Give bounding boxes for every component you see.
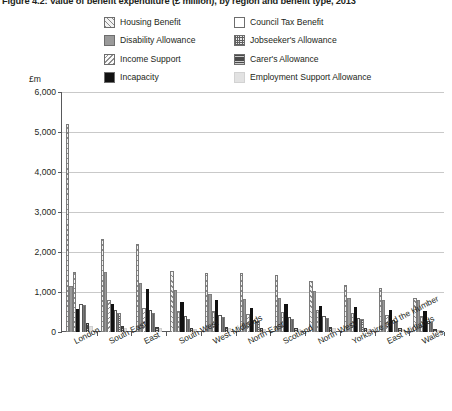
bar-group: [97, 239, 132, 332]
page-title: Figure 4.2: Value of benefit expenditure…: [2, 0, 452, 6]
y-axis-tick-label: 3,000: [34, 207, 56, 217]
crosshatch-swatch: [234, 35, 245, 46]
solid-black-swatch: [104, 72, 115, 83]
diagonal-hatch-swatch: [104, 17, 115, 28]
legend-item-label: Incapacity: [120, 73, 159, 82]
legend-item-label: Jobseeker's Allowance: [250, 36, 337, 45]
y-axis-tick-label: 1,000: [34, 287, 56, 297]
legend-item[interactable]: Employment Support Allowance: [234, 72, 434, 83]
y-gridline: [62, 172, 444, 173]
legend-item[interactable]: Disability Allowance: [104, 35, 234, 46]
reverse-hatch-swatch: [104, 54, 115, 65]
y-axis-unit-label: £m: [29, 74, 41, 84]
y-gridline: [62, 132, 444, 133]
legend-item-label: Council Tax Benefit: [250, 18, 323, 27]
y-axis-tick-label: 0: [51, 327, 56, 337]
y-axis-tick-label: 2,000: [34, 247, 56, 257]
y-axis-tick: [58, 92, 62, 93]
legend-item[interactable]: Carer's Allowance: [234, 54, 434, 65]
bar-group: [166, 271, 201, 332]
light-grey-swatch: [234, 72, 245, 83]
y-axis-tick: [58, 332, 62, 333]
y-gridline: [62, 92, 444, 93]
legend-item-label: Housing Benefit: [120, 18, 181, 27]
solid-grey-swatch: [104, 35, 115, 46]
legend-item-label: Income Support: [120, 55, 181, 64]
bar[interactable]: [159, 328, 162, 332]
legend-item-label: Carer's Allowance: [250, 55, 319, 64]
legend-item[interactable]: Jobseeker's Allowance: [234, 35, 434, 46]
bar-group: [62, 124, 97, 332]
plot-area: 6,0005,0004,0003,0002,0001,0000: [62, 92, 444, 332]
y-axis-tick-label: 5,000: [34, 127, 56, 137]
y-gridline: [62, 212, 444, 213]
legend-item[interactable]: Housing Benefit: [104, 17, 234, 28]
chart-figure: Figure 4.2: Value of benefit expenditure…: [0, 0, 452, 411]
bar-group: [131, 244, 166, 332]
y-axis-tick-label: 4,000: [34, 167, 56, 177]
x-axis-tick: [166, 332, 167, 336]
y-axis-tick-label: 6,000: [34, 87, 56, 97]
legend-item[interactable]: Income Support: [104, 54, 234, 65]
legend-item-label: Employment Support Allowance: [250, 73, 371, 82]
dark-textured-swatch: [234, 54, 245, 65]
legend-item-label: Disability Allowance: [120, 36, 195, 45]
chart-legend: Housing BenefitCouncil Tax BenefitDisabi…: [104, 13, 434, 87]
empty-swatch: [234, 17, 245, 28]
legend-item[interactable]: Council Tax Benefit: [234, 17, 434, 28]
legend-item[interactable]: Incapacity: [104, 72, 234, 83]
